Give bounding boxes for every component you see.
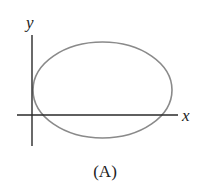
figure-caption: (A) <box>93 162 117 181</box>
y-axis-label: y <box>24 13 34 32</box>
x-axis-label: x <box>181 106 190 125</box>
ellipse-diagram: y x (A) <box>0 0 207 191</box>
ellipse-curve <box>33 42 172 138</box>
